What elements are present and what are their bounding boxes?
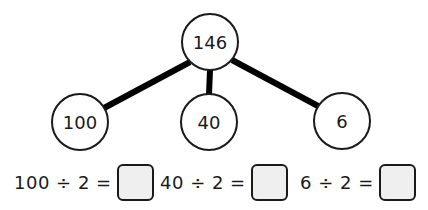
branch-line-left (104, 62, 190, 108)
child-node-label: 100 (63, 112, 97, 133)
root-node-label: 146 (193, 32, 227, 53)
child-node-ones: 6 (314, 93, 370, 149)
child-node-label: 6 (336, 111, 347, 132)
child-node-tens: 40 (181, 94, 237, 150)
equation-hundreds: 100 ÷ 2 = (14, 164, 154, 200)
equation-text: 40 ÷ 2 = (160, 172, 246, 193)
branch-line-middle (209, 70, 210, 94)
equation-ones: 6 ÷ 2 = (300, 164, 416, 200)
partition-tree: 146 100 40 6 (0, 0, 428, 160)
answer-box[interactable] (251, 164, 288, 201)
equation-tens: 40 ÷ 2 = (160, 164, 288, 200)
child-node-label: 40 (198, 112, 221, 133)
equation-text: 6 ÷ 2 = (300, 172, 374, 193)
branch-line-right (232, 60, 318, 106)
answer-box[interactable] (117, 164, 154, 201)
equation-text: 100 ÷ 2 = (14, 172, 112, 193)
answer-box[interactable] (379, 164, 416, 201)
child-node-hundreds: 100 (52, 94, 108, 150)
root-node: 146 (182, 14, 238, 70)
